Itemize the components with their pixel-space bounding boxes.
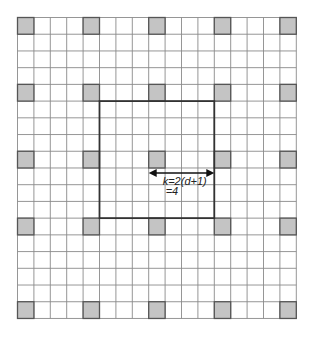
shaded-cell <box>18 302 34 319</box>
shaded-cell <box>18 218 34 235</box>
shaded-cell <box>280 302 296 319</box>
shaded-cell <box>83 18 99 35</box>
shaded-cell <box>18 151 34 168</box>
arrowhead-icon <box>206 169 214 177</box>
shaded-cell <box>214 218 230 235</box>
shaded-cell <box>149 151 165 168</box>
shaded-cell <box>83 151 99 168</box>
arrowhead-icon <box>149 169 157 177</box>
shaded-cell <box>214 18 230 35</box>
shaded-cell <box>149 302 165 319</box>
shaded-cell <box>149 18 165 35</box>
shaded-cell <box>83 84 99 101</box>
shaded-cell <box>214 302 230 319</box>
shaded-cell <box>214 151 230 168</box>
shaded-cell <box>149 84 165 101</box>
shaded-cell <box>280 151 296 168</box>
grid-diagram: k=2(d+1) =4 <box>0 0 313 337</box>
shaded-cell <box>83 218 99 235</box>
annotation-value: =4 <box>166 185 179 197</box>
shaded-cell <box>83 302 99 319</box>
shaded-cell <box>18 18 34 35</box>
shaded-cell <box>280 84 296 101</box>
shaded-cell <box>214 84 230 101</box>
shaded-cell <box>280 218 296 235</box>
shaded-cell <box>280 18 296 35</box>
shaded-cell <box>149 218 165 235</box>
shaded-cell <box>18 84 34 101</box>
